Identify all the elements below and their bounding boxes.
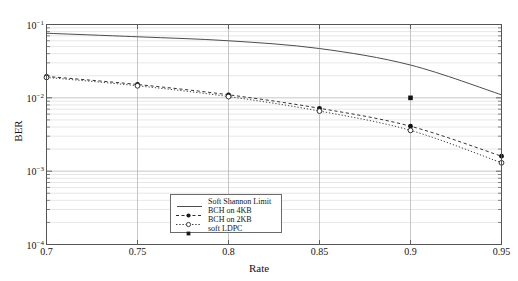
chart-figure (0, 0, 518, 281)
x-tick-label: 0.9 (404, 246, 417, 257)
legend-label: soft LDPC (208, 224, 242, 233)
x-tick-label: 0.8 (222, 246, 235, 257)
legend-item-soft-shannon-limit: Soft Shannon Limit (174, 197, 278, 206)
dashed-line-filled-circle-icon (174, 206, 208, 215)
legend-label: BCH on 2KB (208, 215, 252, 224)
filled-square-icon (174, 224, 208, 233)
y-tick-label: 10−1 (27, 18, 44, 30)
x-tick-label: 0.95 (493, 246, 511, 257)
x-axis-label: Rate (0, 262, 518, 274)
chart-legend: Soft Shannon Limit BCH on 4KB BCH on 2KB… (170, 194, 282, 233)
y-tick-label: 10−2 (27, 92, 44, 104)
legend-item-soft-ldpc: soft LDPC (174, 224, 278, 233)
legend-item-bch-on-4kb: BCH on 4KB (174, 206, 278, 215)
legend-label: BCH on 4KB (208, 206, 252, 215)
dotted-line-open-circle-icon (174, 215, 208, 224)
legend-label: Soft Shannon Limit (208, 197, 271, 206)
y-axis-label: BER (12, 101, 24, 161)
plot-canvas (0, 0, 518, 281)
solid-line-icon (174, 197, 208, 206)
y-tick-label: 10−4 (27, 238, 44, 250)
x-tick-label: 0.85 (311, 246, 329, 257)
legend-item-bch-on-2kb: BCH on 2KB (174, 215, 278, 224)
y-tick-label: 10−3 (27, 165, 44, 177)
x-tick-label: 0.75 (129, 246, 147, 257)
